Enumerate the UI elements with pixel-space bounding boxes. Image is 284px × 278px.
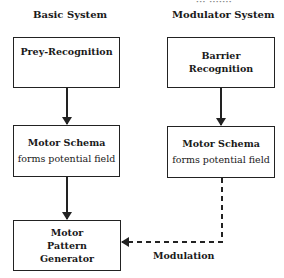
motor-schema-basic-title: Motor Schema [14, 136, 119, 149]
prey-recognition-label: Prey-Recognition [14, 45, 119, 58]
motor-schema-modulator-title: Motor Schema [168, 137, 274, 150]
motor-pattern-generator-box: Motor Pattern Generator [13, 220, 121, 271]
mpg-line3: Generator [14, 252, 120, 265]
motor-schema-basic-subtitle: forms potential field [14, 152, 119, 165]
barrier-recognition-line1: Barrier [168, 49, 274, 62]
motor-schema-modulator-box: Motor Schema forms potential field [167, 126, 275, 178]
arrow-modulation-dashed [122, 178, 222, 242]
motor-schema-modulator-subtitle: forms potential field [168, 153, 274, 166]
modulation-label: Modulation [153, 250, 214, 261]
motor-schema-basic-box: Motor Schema forms potential field [13, 125, 120, 177]
prey-recognition-box: Prey-Recognition [13, 37, 120, 88]
mpg-line2: Pattern [14, 239, 120, 252]
barrier-recognition-line2: Recognition [168, 62, 274, 75]
mpg-line1: Motor [14, 226, 120, 239]
barrier-recognition-box: Barrier Recognition [167, 37, 275, 88]
